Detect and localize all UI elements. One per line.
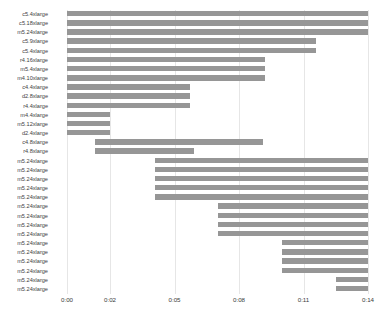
y-axis-label: m5.24xlarge — [0, 221, 48, 230]
y-axis-label: m5.24xlarge — [0, 202, 48, 211]
gantt-bar[interactable] — [155, 158, 368, 163]
x-axis-tick-label: 0:05 — [168, 296, 180, 303]
y-axis-label: r4.4xlarge — [0, 102, 48, 111]
chart-row: c4.8xlarge — [58, 138, 380, 147]
chart-row: c5.9xlarge — [58, 37, 380, 46]
gantt-bar[interactable] — [67, 103, 190, 108]
gantt-bar[interactable] — [282, 249, 368, 254]
gantt-bar[interactable] — [218, 231, 369, 236]
gantt-bar[interactable] — [336, 286, 368, 291]
chart-row: m5.24xlarge — [58, 285, 380, 294]
y-axis-label: c5.18xlarge — [0, 19, 48, 28]
gantt-bar[interactable] — [67, 121, 110, 126]
y-axis-label: m5.12xlarge — [0, 120, 48, 129]
y-axis-label: m5.4xlarge — [0, 65, 48, 74]
gantt-bar[interactable] — [67, 75, 265, 80]
gantt-bar[interactable] — [67, 11, 368, 16]
y-axis-label: d2.4xlarge — [0, 129, 48, 138]
chart-row: m5.24xlarge — [58, 239, 380, 248]
chart-row: m5.24xlarge — [58, 175, 380, 184]
chart-row: r4.4xlarge — [58, 102, 380, 111]
chart-row: m5.24xlarge — [58, 221, 380, 230]
gantt-bar[interactable] — [67, 57, 265, 62]
gantt-bar[interactable] — [282, 258, 368, 263]
chart-row: m5.24xlarge — [58, 257, 380, 266]
y-axis-label: m5.24xlarge — [0, 248, 48, 257]
gantt-bar[interactable] — [155, 167, 368, 172]
x-axis-tick-label: 0:08 — [233, 296, 245, 303]
chart-row: r4.8xlarge — [58, 147, 380, 156]
gantt-bar[interactable] — [67, 66, 265, 71]
y-axis-label: m4.4xlarge — [0, 111, 48, 120]
chart-row: m5.24xlarge — [58, 166, 380, 175]
chart-row: m5.24xlarge — [58, 267, 380, 276]
gantt-bar[interactable] — [336, 277, 368, 282]
y-axis-label: m5.24xlarge — [0, 285, 48, 294]
chart-row: m5.12xlarge — [58, 120, 380, 129]
gantt-bar[interactable] — [95, 148, 194, 153]
gantt-chart: c5.4xlargec5.18xlargem5.24xlargec5.9xlar… — [0, 0, 388, 328]
x-axis-tick-label: 0:14 — [362, 296, 374, 303]
y-axis-label: m5.24xlarge — [0, 267, 48, 276]
y-axis-label: m5.24xlarge — [0, 28, 48, 37]
gantt-bar[interactable] — [67, 48, 316, 53]
x-axis: 0:000:020:050:080:110:14 — [58, 296, 380, 312]
y-axis-label: c4.8xlarge — [0, 138, 48, 147]
gantt-bar[interactable] — [67, 93, 190, 98]
gantt-bar[interactable] — [218, 222, 369, 227]
y-axis-label: c5.4xlarge — [0, 47, 48, 56]
gantt-bar[interactable] — [67, 38, 316, 43]
chart-row: c5.18xlarge — [58, 19, 380, 28]
x-axis-tick-label: 0:11 — [298, 296, 310, 303]
chart-row: m5.24xlarge — [58, 193, 380, 202]
y-axis-label: m5.24xlarge — [0, 257, 48, 266]
x-axis-tick-label: 0:02 — [104, 296, 116, 303]
y-axis-label: m4.10xlarge — [0, 74, 48, 83]
gantt-bar[interactable] — [67, 84, 190, 89]
chart-row: c4.4xlarge — [58, 83, 380, 92]
chart-row: m5.24xlarge — [58, 202, 380, 211]
chart-row: m5.24xlarge — [58, 28, 380, 37]
gantt-bar[interactable] — [218, 203, 369, 208]
gantt-bar[interactable] — [282, 268, 368, 273]
gantt-bar[interactable] — [67, 20, 368, 25]
gantt-bar[interactable] — [67, 112, 110, 117]
y-axis-label: c5.9xlarge — [0, 37, 48, 46]
y-axis-label: m5.24xlarge — [0, 212, 48, 221]
chart-row: m5.24xlarge — [58, 184, 380, 193]
chart-row: m5.24xlarge — [58, 230, 380, 239]
chart-row: m5.24xlarge — [58, 248, 380, 257]
y-axis-label: m5.24xlarge — [0, 193, 48, 202]
gantt-bar[interactable] — [155, 194, 368, 199]
x-axis-tick-label: 0:00 — [61, 296, 73, 303]
y-axis-label: d2.8xlarge — [0, 92, 48, 101]
gantt-bar[interactable] — [218, 213, 369, 218]
chart-row: m5.24xlarge — [58, 212, 380, 221]
y-axis-label: m5.24xlarge — [0, 157, 48, 166]
gantt-bar[interactable] — [67, 130, 110, 135]
chart-row: d2.4xlarge — [58, 129, 380, 138]
y-axis-label: m5.24xlarge — [0, 175, 48, 184]
y-axis-label: r4.16xlarge — [0, 56, 48, 65]
y-axis-label: m5.24xlarge — [0, 230, 48, 239]
y-axis-label: c5.4xlarge — [0, 10, 48, 19]
chart-row: m5.24xlarge — [58, 157, 380, 166]
y-axis-label: c4.4xlarge — [0, 83, 48, 92]
gantt-bar[interactable] — [95, 139, 263, 144]
y-axis-label: m5.24xlarge — [0, 239, 48, 248]
chart-row: m4.4xlarge — [58, 111, 380, 120]
chart-row: c5.4xlarge — [58, 47, 380, 56]
chart-row: c5.4xlarge — [58, 10, 380, 19]
y-axis-label: r4.8xlarge — [0, 147, 48, 156]
y-axis-label: m5.24xlarge — [0, 166, 48, 175]
gantt-bar[interactable] — [282, 240, 368, 245]
gantt-bar[interactable] — [67, 29, 368, 34]
chart-row: m4.10xlarge — [58, 74, 380, 83]
gantt-bar[interactable] — [155, 185, 368, 190]
chart-row: d2.8xlarge — [58, 92, 380, 101]
y-axis-label: m5.24xlarge — [0, 184, 48, 193]
plot-area: c5.4xlargec5.18xlargem5.24xlargec5.9xlar… — [58, 10, 380, 294]
gantt-bar[interactable] — [155, 176, 368, 181]
chart-row: m5.24xlarge — [58, 276, 380, 285]
chart-row: r4.16xlarge — [58, 56, 380, 65]
